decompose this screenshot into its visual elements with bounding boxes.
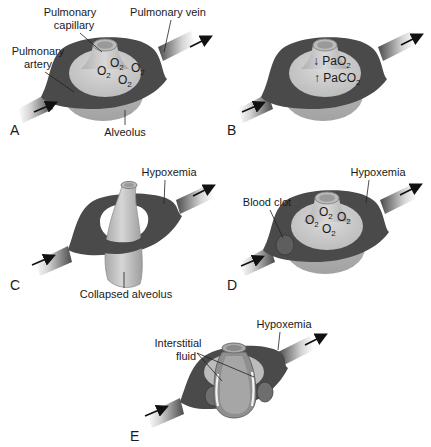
label-alveolus: Alveolus xyxy=(104,126,146,138)
label-hypoxemia: Hypoxemia xyxy=(141,166,197,178)
label-pulmonary-capillary-1: Pulmonary xyxy=(44,6,97,18)
label-pulmonary-artery-2: artery xyxy=(24,58,53,70)
label-hypoxemia: Hypoxemia xyxy=(350,166,406,178)
label-interstitial-fluid-2: fluid xyxy=(176,350,196,362)
label-collapsed-alveolus: Collapsed alveolus xyxy=(80,288,173,300)
label-blood-clot: Blood clot xyxy=(243,196,291,208)
panel-d: O2 O2 O2 O2 Hypoxemia Blood clot D xyxy=(227,166,420,293)
blood-clot xyxy=(276,235,294,255)
paco2-increased-label: ↑ PaCO2 xyxy=(314,71,361,87)
panel-e: Hypoxemia Interstitial fluid E xyxy=(130,318,325,444)
label-pulmonary-capillary-2: capillary xyxy=(54,19,95,31)
label-hypoxemia: Hypoxemia xyxy=(256,318,312,330)
label-pulmonary-artery-1: Pulmonary xyxy=(12,45,65,57)
panel-b: ↓ PaO2 ↑ PaCO2 B xyxy=(227,31,421,138)
label-interstitial-fluid-1: Interstitial xyxy=(154,337,201,349)
panel-letter-b: B xyxy=(227,122,236,138)
leader-line xyxy=(278,332,280,350)
panel-a: O2 O2 O2 O2 Pulmonary capillary Pulmonar… xyxy=(10,6,210,138)
pao2-decreased-label: ↓ PaO2 xyxy=(313,54,351,70)
pulmonary-gas-exchange-diagram: O2 O2 O2 O2 Pulmonary capillary Pulmonar… xyxy=(0,0,431,447)
panel-letter-e: E xyxy=(130,428,139,444)
panel-c: Hypoxemia Collapsed alveolus C xyxy=(10,166,214,300)
panel-letter-c: C xyxy=(10,277,20,293)
label-pulmonary-vein: Pulmonary vein xyxy=(130,6,206,18)
panel-letter-d: D xyxy=(227,277,237,293)
panel-letter-a: A xyxy=(10,122,20,138)
